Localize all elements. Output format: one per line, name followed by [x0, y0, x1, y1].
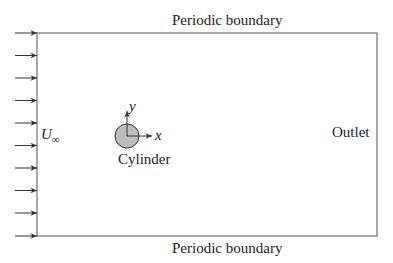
computational-domain-box	[37, 33, 377, 236]
velocity-symbol: U	[41, 126, 52, 142]
inflow-velocity-label: U∞	[41, 127, 60, 145]
x-axis-label: x	[155, 128, 162, 143]
velocity-subscript: ∞	[52, 133, 60, 145]
bottom-boundary-label: Periodic boundary	[172, 241, 282, 256]
inflow-arrows	[15, 33, 37, 236]
top-boundary-label: Periodic boundary	[172, 13, 282, 28]
cylinder-label: Cylinder	[118, 152, 171, 167]
y-axis-label: y	[129, 99, 136, 114]
outlet-label: Outlet	[332, 125, 370, 140]
